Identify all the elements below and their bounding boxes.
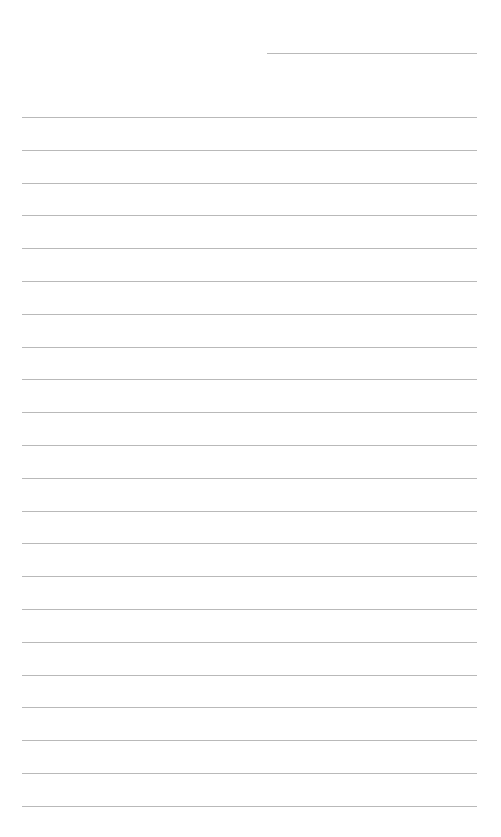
header-name-line xyxy=(267,53,477,54)
writing-line xyxy=(22,642,477,643)
writing-line xyxy=(22,675,477,676)
writing-line xyxy=(22,445,477,446)
writing-line xyxy=(22,347,477,348)
writing-line xyxy=(22,117,477,118)
lined-paper-page xyxy=(0,0,501,837)
writing-line xyxy=(22,281,477,282)
writing-line xyxy=(22,314,477,315)
writing-line xyxy=(22,379,477,380)
writing-line xyxy=(22,806,477,807)
writing-line xyxy=(22,150,477,151)
writing-line xyxy=(22,740,477,741)
writing-line xyxy=(22,248,477,249)
writing-line xyxy=(22,511,477,512)
writing-line xyxy=(22,183,477,184)
writing-line xyxy=(22,478,477,479)
writing-line xyxy=(22,576,477,577)
writing-line xyxy=(22,773,477,774)
writing-line xyxy=(22,215,477,216)
writing-line xyxy=(22,609,477,610)
writing-line xyxy=(22,412,477,413)
writing-line xyxy=(22,543,477,544)
writing-line xyxy=(22,707,477,708)
